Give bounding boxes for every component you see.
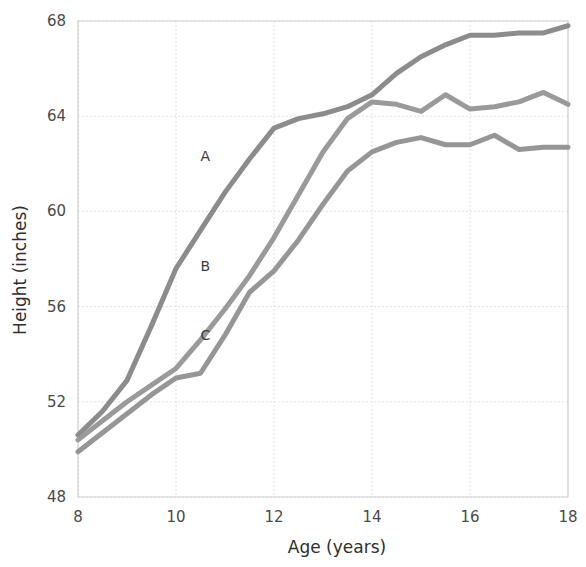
axis-frame [78,21,568,497]
y-axis-tick-labels: 485256606468 [47,12,66,506]
x-tick-label: 14 [362,508,381,526]
x-tick-label: 8 [73,508,83,526]
chart-canvas: 485256606468 81012141618 ABC Age (years)… [0,0,586,567]
line-chart: 485256606468 81012141618 ABC Age (years)… [0,0,586,567]
series-line-c [78,135,568,452]
y-axis-title: Height (inches) [10,205,30,335]
y-tick-label: 48 [47,488,66,506]
x-tick-label: 16 [460,508,479,526]
x-axis-title: Age (years) [288,537,386,557]
series-line-b [78,92,568,439]
series-label-a: A [201,148,211,164]
series-line-a [78,26,568,435]
y-tick-label: 52 [47,393,66,411]
series-label-b: B [201,258,211,274]
y-tick-label: 64 [47,107,66,125]
y-tick-label: 68 [47,12,66,30]
x-tick-label: 10 [166,508,185,526]
data-series-lines [78,26,568,452]
x-axis-tick-labels: 81012141618 [73,508,577,526]
series-label-c: C [201,327,211,343]
plot-border [78,21,568,497]
y-tick-label: 56 [47,298,66,316]
grid-lines [78,21,568,497]
x-tick-label: 18 [558,508,577,526]
y-tick-label: 60 [47,202,66,220]
series-inline-labels: ABC [201,148,211,343]
x-tick-label: 12 [264,508,283,526]
